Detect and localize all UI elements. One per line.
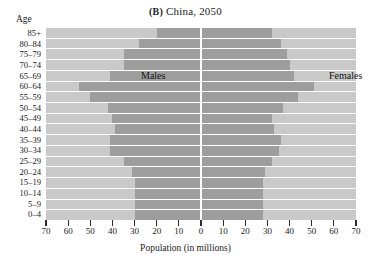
x-tick-label: 10 — [174, 226, 183, 236]
x-tick-label: 30 — [130, 226, 139, 236]
age-label: 55–59 — [0, 92, 43, 103]
bar-female — [201, 178, 263, 188]
age-label: 35–39 — [0, 135, 43, 146]
population-pyramid-figure: (B) China, 2050 Age 85+80–8475–7970–7465… — [0, 0, 371, 269]
chart-title: (B) China, 2050 — [0, 5, 371, 17]
bar-male — [135, 210, 201, 220]
bar-female — [201, 39, 281, 49]
bar-male — [124, 60, 202, 70]
age-label: 65–69 — [0, 71, 43, 82]
bar-male — [90, 92, 201, 102]
bar-male — [124, 157, 202, 167]
center-axis-line — [200, 28, 201, 220]
bar-male — [108, 103, 201, 113]
bar-male — [79, 82, 201, 92]
x-tick-label: 40 — [285, 226, 294, 236]
bar-female — [201, 114, 272, 124]
bar-female — [201, 167, 265, 177]
bar-female — [201, 103, 283, 113]
bar-male — [135, 200, 201, 210]
bar-male — [115, 124, 201, 134]
age-axis-header: Age — [16, 14, 32, 24]
bar-male — [139, 39, 201, 49]
age-label: 15–19 — [0, 177, 43, 188]
x-tick-label: 50 — [86, 226, 95, 236]
bar-female — [201, 82, 314, 92]
bar-female — [201, 157, 272, 167]
series-label-females: Females — [329, 70, 362, 81]
x-tick-label: 60 — [329, 226, 338, 236]
bar-female — [201, 200, 263, 210]
x-tick-label: 0 — [199, 226, 204, 236]
age-label: 25–29 — [0, 156, 43, 167]
age-label: 85+ — [0, 28, 43, 39]
age-label: 70–74 — [0, 60, 43, 71]
bar-female — [201, 210, 263, 220]
bar-male — [110, 135, 201, 145]
panel-letter: (B) — [149, 6, 163, 17]
bar-male — [132, 167, 201, 177]
x-tick-label: 50 — [307, 226, 316, 236]
bar-female — [201, 92, 298, 102]
age-label: 45–49 — [0, 113, 43, 124]
bar-male — [110, 146, 201, 156]
bar-female — [201, 28, 272, 38]
x-tick-label: 70 — [42, 226, 51, 236]
age-label: 75–79 — [0, 49, 43, 60]
age-label: 50–54 — [0, 103, 43, 114]
age-label: 10–14 — [0, 188, 43, 199]
bar-female — [201, 135, 281, 145]
bar-female — [201, 49, 287, 59]
bar-male — [135, 189, 201, 199]
age-label: 80–84 — [0, 39, 43, 50]
x-tick-label: 40 — [108, 226, 117, 236]
bar-male — [135, 178, 201, 188]
bar-male — [112, 114, 201, 124]
bar-female — [201, 124, 274, 134]
x-tick-label: 20 — [241, 226, 250, 236]
x-axis-tick-labels: 70605040302010010203040506070 — [46, 226, 356, 240]
bar-female — [201, 71, 294, 81]
x-axis-title: Population (in millions) — [0, 243, 371, 253]
bar-male — [157, 28, 201, 38]
bar-female — [201, 189, 263, 199]
series-label-males: Males — [141, 70, 165, 81]
x-tick-label: 60 — [64, 226, 73, 236]
age-label: 20–24 — [0, 167, 43, 178]
age-label: 0–4 — [0, 209, 43, 220]
bar-male — [124, 49, 202, 59]
x-tick-label: 30 — [263, 226, 272, 236]
x-tick-label: 70 — [352, 226, 361, 236]
bar-female — [201, 60, 290, 70]
age-label: 30–34 — [0, 145, 43, 156]
age-label: 5–9 — [0, 199, 43, 210]
x-tick-label: 20 — [152, 226, 161, 236]
x-tick-label: 10 — [219, 226, 228, 236]
plot-area: Males Females — [46, 28, 356, 220]
age-axis-labels: 85+80–8475–7970–7465–6960–6455–5950–5445… — [0, 28, 43, 220]
age-label: 60–64 — [0, 81, 43, 92]
age-label: 40–44 — [0, 124, 43, 135]
chart-title-text: China, 2050 — [166, 5, 222, 17]
bar-female — [201, 146, 279, 156]
